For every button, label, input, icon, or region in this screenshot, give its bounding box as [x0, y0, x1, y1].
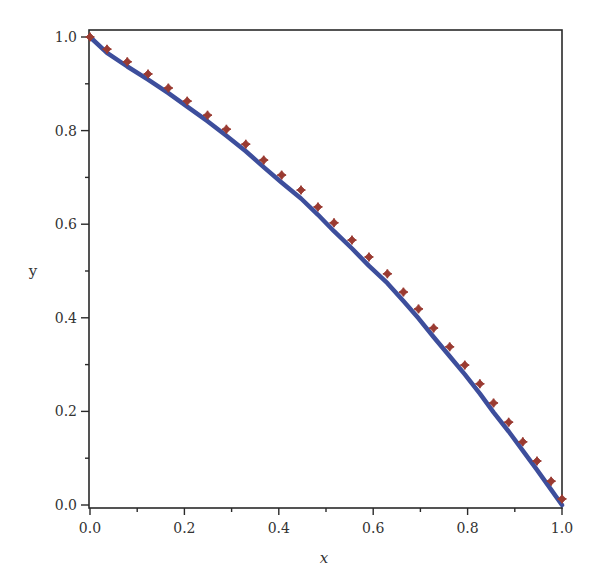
x-tick-label: 0.4 — [268, 520, 290, 536]
data-point-markers — [86, 33, 567, 504]
plot-border — [89, 30, 562, 508]
y-tick-label: 0.2 — [55, 403, 77, 419]
x-axis-ticks: 0.00.20.40.60.81.0 — [79, 508, 573, 536]
y-axis-ticks: 0.00.20.40.60.81.0 — [55, 29, 89, 513]
y-tick-label: 0.8 — [55, 123, 77, 139]
x-tick-label: 0.8 — [456, 520, 478, 536]
curve-line — [90, 37, 562, 505]
chart: 0.00.20.40.60.81.0 0.00.20.40.60.81.0 x … — [0, 0, 595, 580]
y-tick-label: 0.6 — [55, 216, 77, 232]
plot-frame — [89, 30, 562, 508]
x-axis-label: x — [320, 549, 329, 567]
x-tick-label: 0.6 — [362, 520, 384, 536]
x-tick-label: 1.0 — [551, 520, 573, 536]
y-tick-label: 0.4 — [55, 310, 77, 326]
data-point-marker — [383, 269, 392, 278]
curve-polyline — [90, 37, 562, 505]
x-tick-label: 0.2 — [173, 520, 195, 536]
y-axis-label: y — [28, 262, 38, 280]
x-tick-label: 0.0 — [79, 520, 101, 536]
y-tick-label: 1.0 — [55, 29, 77, 45]
y-tick-label: 0.0 — [55, 497, 77, 513]
